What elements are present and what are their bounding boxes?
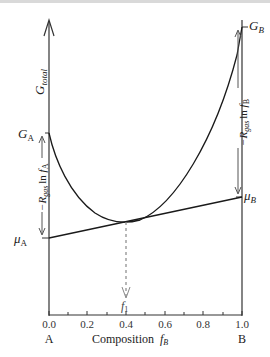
- endpoint-a-label: A: [45, 332, 54, 346]
- mu-a-label: μA: [13, 231, 28, 248]
- endpoint-b-label: B: [238, 332, 246, 346]
- x-tick-label: 0.6: [158, 318, 172, 330]
- x-tick-label: 0.8: [196, 318, 210, 330]
- x-axis-label: CompositionfB: [92, 332, 168, 347]
- y-axis-label: Gtotal: [32, 69, 49, 95]
- x-tick-label: 0.0: [42, 318, 56, 330]
- mu-b-label: μB: [243, 188, 257, 205]
- tangent-line: [49, 197, 242, 238]
- gibbs-free-energy-diagram: Gtotal GA μA −Rgasln fA GB μB −Rgasln fB…: [0, 0, 270, 357]
- g-a-label: GA: [18, 126, 34, 143]
- x-axis: [49, 311, 242, 315]
- tangent-point-label: f1: [121, 299, 128, 314]
- x-tick-label: 0.2: [80, 318, 94, 330]
- x-tick-labels: 0.0 0.2 0.4 0.6 0.8 1.0: [42, 318, 249, 330]
- left-arrow-label: −Rgasln fA: [36, 163, 50, 211]
- x-tick-label: 1.0: [235, 318, 249, 330]
- g-b-label: GB: [249, 18, 264, 35]
- g-total-curve: [49, 27, 242, 222]
- left-energy-arrow: [39, 136, 45, 235]
- right-arrow-label: −Rgasln fB: [237, 99, 251, 146]
- x-tick-label: 0.4: [119, 318, 133, 330]
